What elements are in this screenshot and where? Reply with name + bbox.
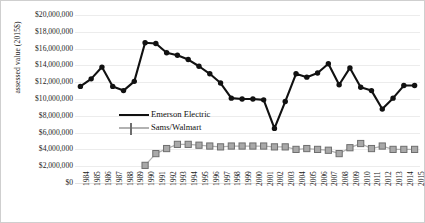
x-tick-label: 2000 (256, 171, 264, 186)
legend-item-sams-walmart: Sams/Walmart (119, 121, 210, 134)
legend-marker-emerson (119, 109, 149, 120)
x-tick-label: 1995 (202, 171, 210, 186)
x-tick-label: 2013 (396, 171, 404, 186)
x-tick-label: 1991 (159, 171, 167, 186)
x-tick-label: 2004 (299, 171, 307, 186)
x-tick-label: 2012 (385, 171, 393, 186)
x-tick-label: 2005 (310, 171, 318, 186)
x-tick-label: 1993 (180, 171, 188, 186)
x-tick-label: 1996 (213, 171, 221, 186)
x-tick-label: 2001 (267, 171, 275, 186)
x-tick-label: 1997 (224, 171, 232, 186)
x-tick-label: 2015 (418, 171, 425, 186)
x-tick-label: 1988 (127, 171, 135, 186)
legend-marker-walmart (119, 122, 149, 133)
x-tick-label: 2008 (342, 171, 350, 186)
x-axis-tick-labels: 1984198519861987198819891990199119921993… (1, 1, 425, 223)
x-tick-label: 1998 (234, 171, 242, 186)
x-tick-label: 2009 (353, 171, 361, 186)
square-marker-icon (130, 123, 132, 135)
x-tick-label: 1990 (148, 171, 156, 186)
x-tick-label: 1984 (83, 171, 91, 186)
chart-legend: Emerson Electric Sams/Walmart (119, 108, 210, 134)
x-tick-label: 2003 (288, 171, 296, 186)
legend-label-walmart: Sams/Walmart (151, 122, 201, 133)
x-tick-label: 1992 (170, 171, 178, 186)
x-tick-label: 1989 (137, 171, 145, 186)
chart-figure: assessed value (2015$) $20,000,000$18,00… (0, 0, 425, 223)
x-tick-label: 2007 (331, 171, 339, 186)
x-tick-label: 1999 (245, 171, 253, 186)
x-tick-label: 2011 (374, 171, 382, 186)
x-tick-label: 1987 (116, 171, 124, 186)
x-tick-label: 2014 (407, 171, 415, 186)
x-tick-label: 2006 (321, 171, 329, 186)
legend-item-emerson-electric: Emerson Electric (119, 108, 210, 121)
legend-label-emerson: Emerson Electric (151, 109, 210, 120)
x-tick-label: 1986 (105, 171, 113, 186)
x-tick-label: 1994 (191, 171, 199, 186)
x-tick-label: 2002 (277, 171, 285, 186)
x-tick-label: 1985 (94, 171, 102, 186)
x-tick-label: 2010 (364, 171, 372, 186)
